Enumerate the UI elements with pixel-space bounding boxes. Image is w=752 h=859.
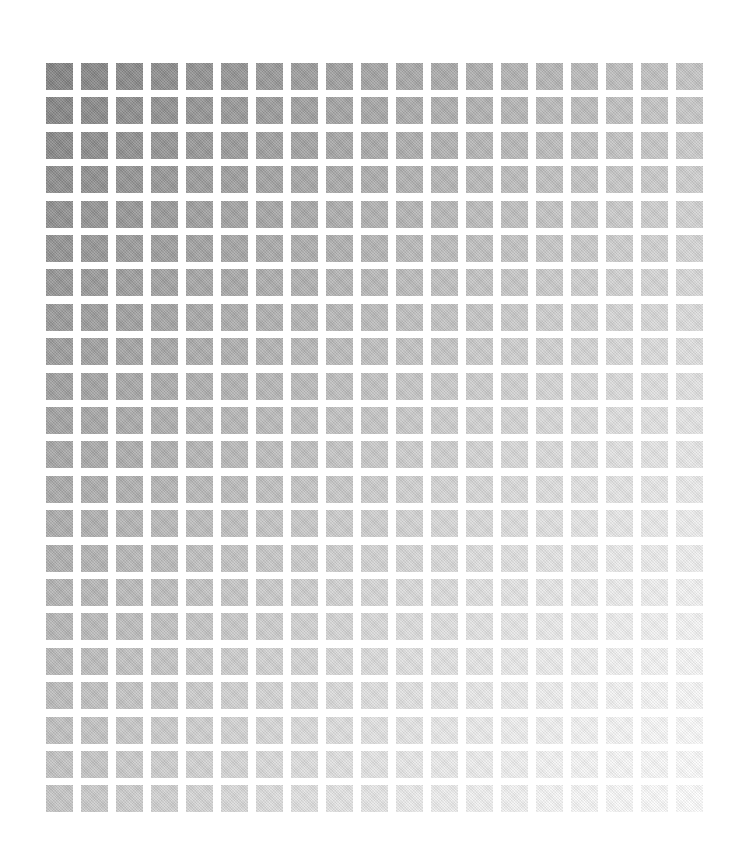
grid-square — [361, 510, 388, 537]
grid-square — [606, 166, 633, 193]
grid-square — [81, 338, 108, 365]
grid-square — [46, 373, 73, 400]
grid-square — [186, 717, 213, 744]
grid-square — [641, 613, 668, 640]
grid-square — [291, 613, 318, 640]
grid-square — [221, 132, 248, 159]
grid-square — [501, 717, 528, 744]
grid-square — [676, 407, 703, 434]
grid-square — [431, 166, 458, 193]
grid-square — [46, 235, 73, 262]
grid-square — [501, 648, 528, 675]
grid-square — [81, 441, 108, 468]
grid-square — [291, 269, 318, 296]
grid-square — [256, 579, 283, 606]
grid-square — [151, 407, 178, 434]
grid-square — [221, 717, 248, 744]
grid-square — [291, 235, 318, 262]
grid-square — [256, 304, 283, 331]
grid-square — [291, 648, 318, 675]
grid-square — [291, 338, 318, 365]
grid-square — [81, 304, 108, 331]
gradient-square-grid — [0, 0, 752, 859]
grid-square — [466, 441, 493, 468]
grid-square — [571, 579, 598, 606]
grid-square — [641, 545, 668, 572]
grid-square — [396, 682, 423, 709]
grid-square — [221, 441, 248, 468]
grid-square — [536, 648, 563, 675]
grid-square — [46, 682, 73, 709]
grid-square — [466, 407, 493, 434]
grid-square — [326, 682, 353, 709]
grid-square — [641, 441, 668, 468]
grid-square — [326, 613, 353, 640]
grid-square — [81, 648, 108, 675]
grid-square — [186, 235, 213, 262]
grid-square — [396, 545, 423, 572]
grid-square — [431, 97, 458, 124]
grid-square — [221, 785, 248, 812]
grid-square — [46, 97, 73, 124]
grid-square — [46, 751, 73, 778]
grid-square — [396, 132, 423, 159]
grid-square — [186, 63, 213, 90]
grid-square — [81, 132, 108, 159]
grid-square — [186, 269, 213, 296]
grid-square — [46, 441, 73, 468]
grid-square — [606, 97, 633, 124]
grid-square — [116, 682, 143, 709]
grid-square — [221, 751, 248, 778]
grid-square — [606, 441, 633, 468]
grid-square — [186, 132, 213, 159]
grid-square — [606, 304, 633, 331]
grid-square — [326, 201, 353, 228]
grid-square — [46, 166, 73, 193]
grid-square — [221, 63, 248, 90]
grid-square — [676, 510, 703, 537]
grid-square — [81, 476, 108, 503]
grid-square — [151, 235, 178, 262]
grid-square — [571, 338, 598, 365]
grid-square — [536, 785, 563, 812]
grid-square — [606, 648, 633, 675]
grid-square — [361, 476, 388, 503]
grid-square — [396, 373, 423, 400]
grid-square — [221, 545, 248, 572]
grid-square — [606, 476, 633, 503]
grid-square — [151, 510, 178, 537]
grid-square — [326, 269, 353, 296]
grid-square — [396, 235, 423, 262]
grid-square — [46, 476, 73, 503]
grid-square — [641, 510, 668, 537]
grid-square — [291, 166, 318, 193]
grid-square — [466, 785, 493, 812]
grid-square — [396, 717, 423, 744]
grid-square — [256, 201, 283, 228]
grid-square — [571, 717, 598, 744]
grid-square — [291, 717, 318, 744]
grid-square — [326, 63, 353, 90]
grid-square — [361, 545, 388, 572]
grid-square — [326, 545, 353, 572]
grid-square — [326, 510, 353, 537]
grid-square — [536, 476, 563, 503]
grid-square — [431, 545, 458, 572]
grid-square — [186, 476, 213, 503]
grid-square — [641, 304, 668, 331]
grid-square — [291, 97, 318, 124]
grid-square — [536, 373, 563, 400]
grid-square — [536, 751, 563, 778]
grid-square — [571, 304, 598, 331]
grid-square — [81, 63, 108, 90]
grid-square — [466, 682, 493, 709]
grid-square — [571, 407, 598, 434]
grid-square — [641, 63, 668, 90]
grid-square — [291, 132, 318, 159]
grid-square — [221, 338, 248, 365]
grid-square — [361, 648, 388, 675]
grid-square — [606, 132, 633, 159]
grid-square — [431, 304, 458, 331]
grid-square — [116, 476, 143, 503]
grid-square — [501, 201, 528, 228]
